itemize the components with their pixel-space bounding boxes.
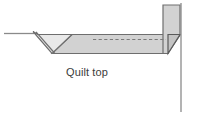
edge-bevel-shape	[168, 35, 180, 54]
quilt-top-diagram: Quilt top	[0, 0, 198, 116]
diagram-canvas	[0, 0, 198, 116]
figure-caption: Quilt top	[0, 66, 174, 79]
